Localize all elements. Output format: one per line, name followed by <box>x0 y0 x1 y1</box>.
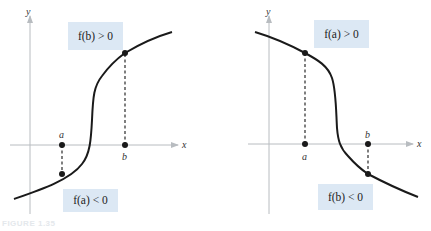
point-fb <box>365 171 371 177</box>
fb-positive-label: f(b) > 0 <box>78 30 113 43</box>
y-axis-label: y <box>25 6 31 17</box>
y-axis-label: y <box>265 6 271 17</box>
x-axis-label: x <box>181 139 187 150</box>
point-a <box>302 141 308 147</box>
point-fb <box>122 50 128 56</box>
fb-negative-label: f(b) < 0 <box>328 191 363 204</box>
right-graph: y x a b f(a) > 0 f(b) < 0 <box>248 6 422 214</box>
intermediate-value-figure: y x a b f(b) > 0 f(a) < 0 y x a b f(a) >… <box>0 0 431 231</box>
figure-caption: FIGURE 1.35 <box>2 219 56 228</box>
decreasing-curve <box>255 32 418 197</box>
point-b <box>365 141 371 147</box>
label-a: a <box>59 129 64 140</box>
point-fa <box>59 171 65 177</box>
point-a <box>59 142 65 148</box>
point-b <box>122 142 128 148</box>
label-b: b <box>365 129 370 140</box>
label-b: b <box>122 151 127 162</box>
label-a: a <box>302 151 307 162</box>
point-fa <box>302 50 308 56</box>
left-graph: y x a b f(b) > 0 f(a) < 0 <box>10 6 187 214</box>
fa-negative-label: f(a) < 0 <box>73 194 108 207</box>
increasing-curve <box>14 32 172 199</box>
fa-positive-label: f(a) > 0 <box>324 28 359 41</box>
x-axis-label: x <box>416 138 422 149</box>
